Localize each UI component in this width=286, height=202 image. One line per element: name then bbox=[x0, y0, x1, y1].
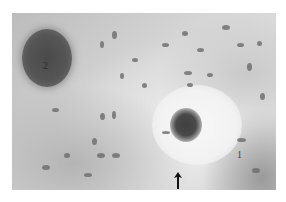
nucleus bbox=[162, 43, 169, 47]
nucleus bbox=[247, 63, 252, 71]
nucleus bbox=[237, 138, 246, 142]
large-vessel-lumen bbox=[22, 29, 72, 87]
nucleus bbox=[184, 71, 192, 75]
nucleus bbox=[257, 41, 262, 46]
nucleus bbox=[52, 108, 59, 112]
nucleus bbox=[207, 73, 213, 77]
nucleus bbox=[132, 58, 138, 62]
nucleus bbox=[84, 173, 92, 177]
arrow-up-icon bbox=[174, 172, 182, 189]
micrograph: 2 1 bbox=[12, 13, 276, 190]
nucleus bbox=[142, 83, 147, 88]
nucleus bbox=[97, 153, 105, 158]
nucleus bbox=[187, 83, 193, 87]
nucleus bbox=[112, 153, 120, 158]
label-2: 2 bbox=[43, 60, 48, 71]
small-vessel-cross-section bbox=[170, 108, 202, 142]
nucleus bbox=[92, 138, 97, 145]
nucleus bbox=[112, 111, 116, 119]
nucleus bbox=[222, 25, 230, 30]
nucleus bbox=[260, 93, 265, 100]
label-1: 1 bbox=[237, 149, 242, 160]
nucleus bbox=[42, 165, 50, 170]
nucleus bbox=[64, 153, 70, 158]
nucleus bbox=[252, 168, 260, 173]
nucleus bbox=[120, 73, 124, 79]
nucleus bbox=[237, 43, 244, 47]
nucleus bbox=[197, 48, 204, 52]
nucleus bbox=[100, 41, 104, 48]
nucleus bbox=[162, 131, 170, 134]
nucleus bbox=[100, 113, 105, 120]
nucleus bbox=[182, 31, 188, 36]
nucleus bbox=[112, 31, 117, 39]
